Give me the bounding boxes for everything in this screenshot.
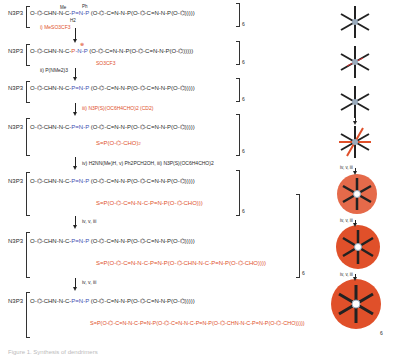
step-label-iv-v-iii-2: iv, v, iii — [82, 218, 96, 224]
right-step-label: iv, v, iii — [340, 272, 353, 277]
chain-text: O-⌬-CHN-N-C-P=N-P (O-⌬-C=N-N-P(O-⌬-C=N-N… — [30, 85, 195, 92]
step-label-iv-v-iii-3: iv, v, iii — [82, 279, 96, 285]
reaction-arrow — [75, 278, 76, 288]
reaction-arrow — [355, 220, 356, 224]
bracket-right — [236, 170, 240, 216]
multiplier: 6 — [242, 59, 245, 65]
core-label: N3P3 — [8, 238, 23, 245]
multiplier: 6 — [242, 96, 245, 102]
figure-caption: Figure 1. Synthesis of dendrimers — [8, 349, 98, 355]
bracket-right — [236, 3, 240, 27]
multiplier: 6 — [242, 21, 245, 27]
red-branch: S=P(O-⌬-CHO)2 — [96, 140, 141, 147]
step-label-iv-v-iii: iv) H2NN(Me)H, v) Ph2PCH2OH, iii) N3P(S)… — [82, 160, 214, 166]
core-label: N3P3 — [8, 124, 23, 131]
reaction-arrow — [355, 168, 356, 172]
bracket-right — [236, 78, 240, 102]
multiplier: 6 — [302, 270, 305, 276]
reaction-arrow — [75, 68, 76, 78]
bracket-right — [236, 41, 240, 65]
core-label: N3P3 — [8, 178, 23, 185]
step-label-i: i) MeSO3CF3 — [40, 24, 71, 30]
chain-text: O-⌬-CHN-N-C-P=N-P (O-⌬-C=N-N-P(O-⌬-C=N-N… — [30, 124, 195, 131]
reaction-arrow — [75, 28, 76, 40]
chain-text: O-⌬-CHN-N-C-P=N-P (O-⌬-C=N-N-P(O-⌬-C=N-N… — [30, 238, 195, 245]
core-label: N3P3 — [8, 298, 23, 305]
step-label-ii: ii) P(NMe2)3 — [40, 67, 68, 73]
multiplier: 6 — [242, 148, 245, 154]
right-step-label: iv, v, iii — [340, 218, 353, 223]
reaction-arrow — [355, 274, 356, 278]
dendrimer-g2-icon — [335, 122, 375, 162]
dendrimer-g1-ylide-icon — [335, 82, 375, 122]
cation-mark: ⊕ — [80, 41, 84, 48]
bracket-right — [296, 194, 300, 278]
core-label: N3P3 — [8, 10, 23, 17]
h2-label: H2 — [70, 17, 76, 24]
counterion: SO3CF3 — [96, 60, 115, 66]
multiplier: 6 — [242, 208, 245, 214]
reaction-arrow — [75, 157, 76, 167]
chain-text: O-⌬-CHN-N-C-P=N-P (O-⌬-C=N-N-P(O-⌬-C=N-N… — [30, 298, 195, 305]
right-step-label: iv, v, iii — [340, 165, 353, 170]
red-branch: S=P(O-⌬-C=N-N-C-P=N-P(O-⌬-CHO))) — [96, 200, 203, 207]
dendrimer-g3-icon — [335, 172, 379, 216]
core-label: N3P3 — [8, 48, 23, 55]
red-branch: S=P(O-⌬-C=N-N-C-P=N-P(O-⌬-CHN-N-C-P=N-P(… — [96, 260, 266, 267]
step-label-iii: iii) N3P(S)(OC6H4CHO)2 (CD2) — [82, 105, 153, 111]
chain-text: O-⌬-CHN-N-C-P-N-P (O-⌬-C=N-N-P(O-⌬-C=N-N… — [30, 48, 193, 55]
reaction-arrow — [355, 118, 356, 122]
bracket-right — [236, 114, 240, 156]
dendrimer-g1-icon — [335, 2, 375, 42]
red-branch: S=P(O-⌬-C=N-N-C-P=N-P(O-⌬-C=N-N-C-P=N-P(… — [90, 320, 305, 327]
core-label: N3P3 — [8, 85, 23, 92]
dendrimer-g5-icon — [330, 278, 382, 330]
multiplier: 6 — [380, 330, 383, 336]
chain-text: O-⌬-CHN-N-C-P=N-P (O-⌬-C=N-N-P(O-⌬-C=N-N… — [30, 178, 195, 185]
ph-label: Ph — [82, 3, 88, 10]
reaction-arrow — [75, 103, 76, 113]
reaction-arrow — [75, 216, 76, 226]
chain-text: O-⌬-CHN-N-C-P=N-P (O-⌬-C=N-N-P(O-⌬-C=N-N… — [30, 10, 195, 17]
dendrimer-g4-icon — [335, 224, 381, 270]
dendrimer-g1-cation-icon — [335, 42, 375, 82]
